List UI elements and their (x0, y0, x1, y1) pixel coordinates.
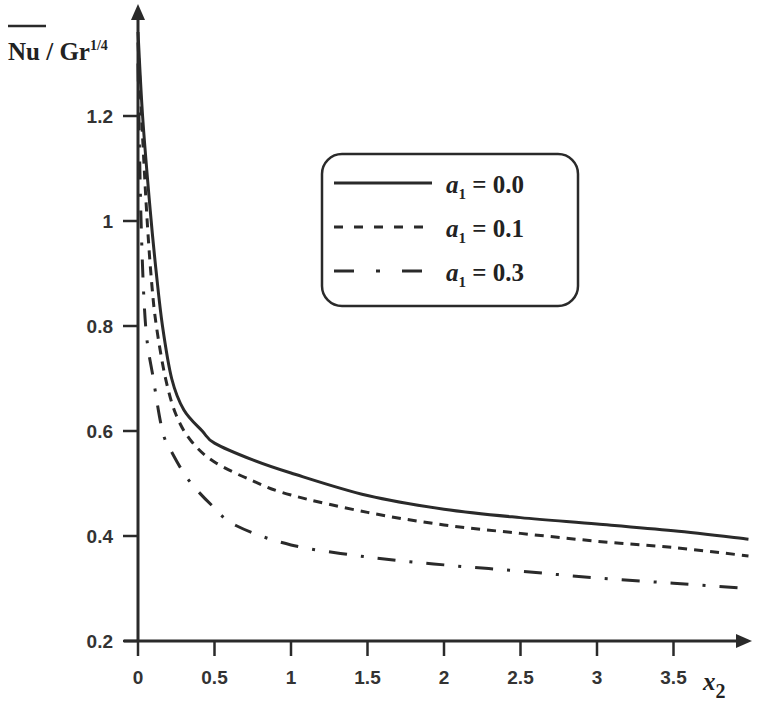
y-tick-label: 1.2 (87, 106, 113, 127)
x-tick-label: 2 (439, 667, 450, 688)
data-lines (138, 32, 748, 589)
legend-label: a1 = 0.3 (446, 259, 524, 290)
y-axis-label: Nu / Gr1/4 (8, 38, 108, 65)
x-axis-label: x2 (702, 668, 726, 702)
x-tick-label: 3 (592, 667, 603, 688)
legend: a1 = 0.0a1 = 0.1a1 = 0.3 (322, 154, 578, 306)
y-tick-label: 0.2 (87, 631, 113, 652)
x-tick-label: 0.5 (201, 667, 228, 688)
x-axis-arrow-icon (736, 634, 752, 648)
y-axis-arrow-icon (131, 4, 145, 20)
axes: 00.511.522.533.50.20.40.60.811.2Nu / Gr1… (8, 4, 752, 702)
y-tick-label: 0.8 (87, 316, 113, 337)
line-chart: 00.511.522.533.50.20.40.60.811.2Nu / Gr1… (0, 0, 771, 710)
x-tick-label: 3.5 (660, 667, 687, 688)
x-tick-label: 2.5 (507, 667, 534, 688)
y-tick-label: 1 (102, 211, 113, 232)
y-tick-label: 0.4 (87, 526, 114, 547)
legend-label: a1 = 0.0 (446, 171, 524, 202)
x-tick-label: 1.5 (354, 667, 381, 688)
x-tick-label: 0 (133, 667, 144, 688)
x-tick-label: 1 (286, 667, 297, 688)
legend-label: a1 = 0.1 (446, 215, 524, 246)
y-tick-label: 0.6 (87, 421, 113, 442)
